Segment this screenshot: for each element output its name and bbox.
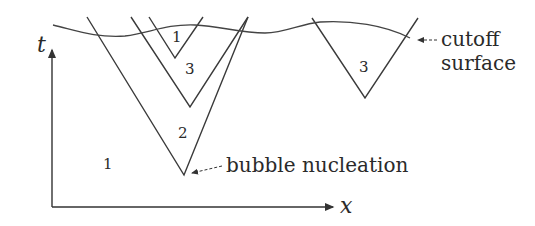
cutoff-surface: [53, 22, 410, 38]
region-label-bubble-inner: 1: [172, 28, 182, 46]
region-label-bubble-nested: 3: [185, 60, 195, 78]
nucleation-label: bubble nucleation: [226, 153, 408, 177]
x-axis-label: x: [340, 193, 353, 218]
region-label-bubble-big: 2: [178, 124, 188, 142]
bubble-cone-big: [87, 17, 248, 175]
diagram-canvas: t x 1 2 3 1 3 bubble nucleation cutoff s…: [0, 0, 535, 226]
region-label-outer: 1: [103, 155, 113, 173]
nucleation-arrow: [192, 166, 222, 173]
cutoff-label-line2: surface: [441, 51, 516, 75]
t-axis-label: t: [37, 32, 46, 57]
region-label-bubble-right: 3: [359, 58, 369, 76]
cutoff-label-line1: cutoff: [441, 27, 501, 51]
